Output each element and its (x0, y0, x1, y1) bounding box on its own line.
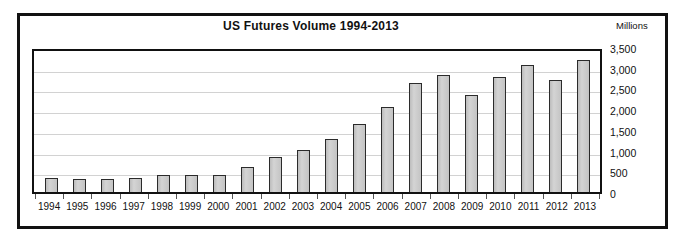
x-label-2001: 2001 (232, 201, 260, 212)
x-tick (91, 194, 92, 199)
bar-slot (37, 51, 65, 192)
x-label-1994: 1994 (35, 201, 63, 212)
bar-2004 (325, 139, 338, 192)
x-label-2004: 2004 (317, 201, 345, 212)
x-tick (317, 194, 318, 199)
x-axis-ticks (32, 194, 602, 200)
bar-1996 (101, 179, 114, 192)
x-tick (599, 194, 600, 199)
bar-2013 (577, 60, 590, 192)
bar-slot (65, 51, 93, 192)
bar-slot (93, 51, 121, 192)
x-label-1999: 1999 (176, 201, 204, 212)
x-tick (458, 194, 459, 199)
x-tick (120, 194, 121, 199)
x-tick (63, 194, 64, 199)
x-label-2000: 2000 (204, 201, 232, 212)
x-label-1998: 1998 (148, 201, 176, 212)
x-tick (148, 194, 149, 199)
bar-2011 (521, 65, 534, 192)
y-tick-label-2500: 2,500 (610, 84, 636, 96)
bar-slot (261, 51, 289, 192)
x-tick (373, 194, 374, 199)
chart-figure: US Futures Volume 1994-2013 Millions 3,5… (17, 13, 668, 229)
bar-slot (121, 51, 149, 192)
bar-slot (457, 51, 485, 192)
x-label-2011: 2011 (514, 201, 542, 212)
bar-slot (485, 51, 513, 192)
y-tick-label-0: 0 (610, 188, 616, 200)
x-tick (176, 194, 177, 199)
bar-2003 (297, 150, 310, 192)
x-tick (204, 194, 205, 199)
x-label-1997: 1997 (120, 201, 148, 212)
bar-1999 (185, 175, 198, 192)
bar-2000 (213, 175, 226, 192)
x-label-2012: 2012 (543, 201, 571, 212)
x-tick (430, 194, 431, 199)
bar-2008 (437, 75, 450, 192)
y-tick-label-1500: 1,500 (610, 126, 636, 138)
y-axis-tick-labels: 3,5003,0002,5002,0001,5001,0005000 (610, 49, 670, 194)
x-label-2010: 2010 (486, 201, 514, 212)
bar-1997 (129, 178, 142, 193)
chart-title: US Futures Volume 1994-2013 (20, 19, 602, 33)
bar-1995 (73, 179, 86, 192)
bar-2006 (381, 107, 394, 192)
x-tick (486, 194, 487, 199)
bar-slot (429, 51, 457, 192)
x-tick (232, 194, 233, 199)
x-axis-tick-labels: 1994199519961997199819992000200120022003… (32, 201, 602, 212)
bar-2009 (465, 95, 478, 192)
x-label-2008: 2008 (430, 201, 458, 212)
x-tick (402, 194, 403, 199)
x-label-2005: 2005 (345, 201, 373, 212)
y-tick-label-1000: 1,000 (610, 147, 636, 159)
bar-slot (317, 51, 345, 192)
x-tick (514, 194, 515, 199)
x-label-2006: 2006 (373, 201, 401, 212)
x-tick (35, 194, 36, 199)
y-tick-label-500: 500 (610, 167, 628, 179)
chart-inner: US Futures Volume 1994-2013 Millions 3,5… (20, 16, 665, 226)
x-tick (345, 194, 346, 199)
x-label-2009: 2009 (458, 201, 486, 212)
bar-slot (541, 51, 569, 192)
y-tick-label-2000: 2,000 (610, 105, 636, 117)
bar-slot (289, 51, 317, 192)
x-tick (543, 194, 544, 199)
bar-2002 (269, 157, 282, 192)
bar-2007 (409, 83, 422, 192)
bar-2010 (493, 77, 506, 192)
x-label-2013: 2013 (571, 201, 599, 212)
y-axis-units-label: Millions (616, 20, 648, 31)
x-label-2002: 2002 (261, 201, 289, 212)
x-label-2003: 2003 (289, 201, 317, 212)
bar-slot (513, 51, 541, 192)
x-tick (289, 194, 290, 199)
y-tick-label-3000: 3,000 (610, 64, 636, 76)
plot-area (32, 49, 602, 194)
y-tick-label-3500: 3,500 (610, 43, 636, 55)
bar-slot (401, 51, 429, 192)
bar-2005 (353, 124, 366, 192)
bar-1994 (45, 178, 58, 193)
bar-slot (205, 51, 233, 192)
bar-slot (345, 51, 373, 192)
bar-slot (177, 51, 205, 192)
bar-2012 (549, 80, 562, 192)
x-tick (571, 194, 572, 199)
x-tick (261, 194, 262, 199)
bar-1998 (157, 175, 170, 192)
bar-slot (233, 51, 261, 192)
x-label-2007: 2007 (402, 201, 430, 212)
bar-slot (373, 51, 401, 192)
bar-2001 (241, 167, 254, 192)
x-label-1996: 1996 (91, 201, 119, 212)
bar-slot (149, 51, 177, 192)
bar-slot (569, 51, 597, 192)
x-label-1995: 1995 (63, 201, 91, 212)
bar-series (34, 51, 600, 192)
